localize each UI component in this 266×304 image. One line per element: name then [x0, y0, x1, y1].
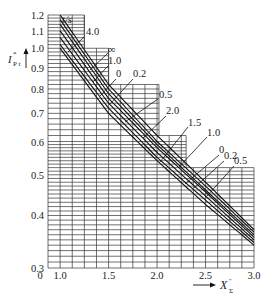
series-label: 1.0: [108, 55, 121, 66]
x-tick-label: 2.0: [150, 270, 163, 281]
series-label: 4.0: [86, 26, 99, 37]
label-leader-line: [143, 116, 166, 138]
series-label: 0.2: [133, 68, 146, 79]
y-tick-label: 0.8: [31, 84, 44, 95]
x-axis-arrowhead: [210, 283, 216, 288]
series-label: 0.5: [234, 155, 247, 166]
leaders: [68, 37, 234, 196]
y-tick-label: 1.1: [31, 26, 44, 37]
x-axis-label-sub: Σ: [229, 287, 233, 295]
y-tick-label: 0.4: [31, 210, 45, 221]
y-tick-labels: 1.21.11.00.90.80.70.60.50.40.3: [31, 10, 45, 274]
y-axis-label-star: *: [13, 50, 17, 58]
y-axis-arrowhead: [24, 48, 29, 54]
x-tick-label: 1.5: [102, 270, 115, 281]
x-tick-label: 3.0: [247, 270, 260, 281]
y-tick-label: 0.5: [31, 170, 44, 181]
series-label: 1.0: [207, 127, 220, 138]
x-tick-label: 0: [37, 270, 42, 281]
y-axis-label-sub: P t: [13, 60, 20, 68]
label-leader-line: [185, 155, 219, 184]
series-label: 2.0: [166, 105, 179, 116]
series-label: 0: [116, 68, 121, 79]
x-tick-label: 2.5: [199, 270, 212, 281]
series-label: 1.5: [188, 117, 201, 128]
y-tick-label: 0.7: [31, 108, 44, 119]
y-axis-label-text: I: [7, 54, 12, 65]
x-axis-label-primes: '': [229, 277, 232, 285]
x-axis-label-text: X: [219, 278, 228, 292]
x-tick-label: 1.0: [54, 270, 67, 281]
series-label: 0.5: [159, 89, 172, 100]
series-label: ∞: [108, 44, 116, 55]
y-tick-label: 0.6: [31, 137, 44, 148]
y-tick-label: 0.9: [31, 63, 44, 74]
chart: 1.21.11.00.90.80.70.60.50.40.3 01.01.52.…: [0, 0, 266, 304]
y-tick-label: 1.2: [31, 10, 44, 21]
y-axis-label: I * P t: [7, 48, 29, 68]
label-leader-line: [110, 79, 133, 104]
legend-title: t/s: [62, 14, 72, 25]
y-tick-label: 1.0: [31, 43, 44, 54]
